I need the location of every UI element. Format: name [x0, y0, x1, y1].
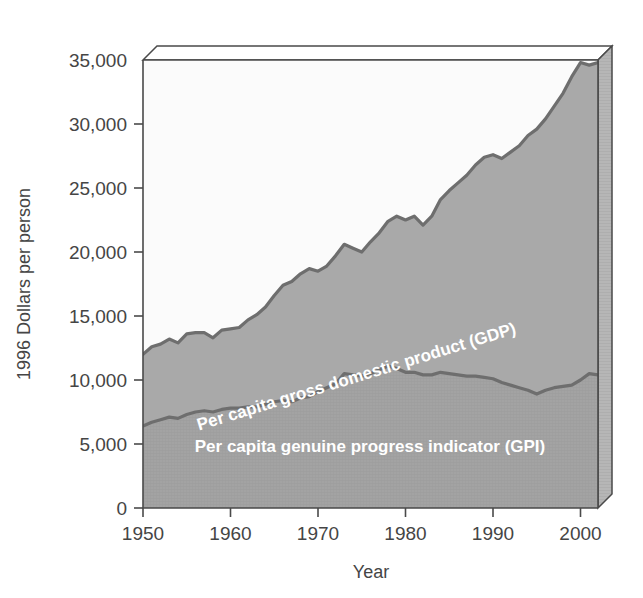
y-tick-label: 25,000 [69, 178, 127, 199]
y-tick-label: 20,000 [69, 242, 127, 263]
y-tick-label: 10,000 [69, 370, 127, 391]
x-tick-label: 1950 [122, 523, 164, 544]
area-chart: 05,00010,00015,00020,00025,00030,00035,0… [0, 0, 643, 598]
x-tick-label: 1960 [209, 523, 251, 544]
figure-container: 05,00010,00015,00020,00025,00030,00035,0… [0, 0, 643, 598]
x-tick-label: 2000 [559, 523, 601, 544]
gpi-series-label: Per capita genuine progress indicator (G… [195, 437, 545, 456]
y-tick-label: 35,000 [69, 50, 127, 71]
y-tick-label: 15,000 [69, 306, 127, 327]
y-axis-title: 1996 Dollars per person [14, 188, 34, 380]
y-tick-label: 30,000 [69, 114, 127, 135]
x-tick-label: 1980 [384, 523, 426, 544]
y-axis-ticks: 05,00010,00015,00020,00025,00030,00035,0… [69, 50, 143, 519]
x-axis-title: Year [353, 562, 389, 582]
y-tick-label: 5,000 [79, 434, 127, 455]
x-tick-label: 1990 [472, 523, 514, 544]
chart-side-panel [598, 46, 612, 508]
y-tick-label: 0 [116, 498, 127, 519]
chart-top-panel [143, 46, 612, 60]
x-tick-label: 1970 [297, 523, 339, 544]
x-axis-ticks: 195019601970198019902000 [122, 508, 602, 544]
